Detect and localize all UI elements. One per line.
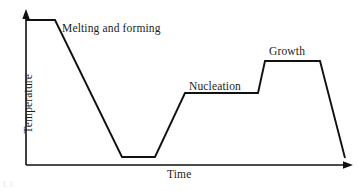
page-corner-artifact: 1.1 bbox=[2, 180, 13, 188]
chart-canvas bbox=[0, 0, 359, 191]
x-axis-label: Time bbox=[167, 169, 191, 181]
y-axis-label: Temperature bbox=[23, 59, 35, 149]
x-axis-arrowhead bbox=[343, 161, 353, 168]
annotation-melting-and-forming: Melting and forming bbox=[62, 23, 161, 35]
y-axis-arrowhead bbox=[22, 9, 29, 19]
annotation-nucleation: Nucleation bbox=[189, 81, 241, 93]
annotation-growth: Growth bbox=[269, 46, 305, 58]
temperature-profile-line bbox=[26, 20, 345, 158]
thermal-profile-figure: Melting and forming Nucleation Growth Ti… bbox=[0, 0, 359, 191]
